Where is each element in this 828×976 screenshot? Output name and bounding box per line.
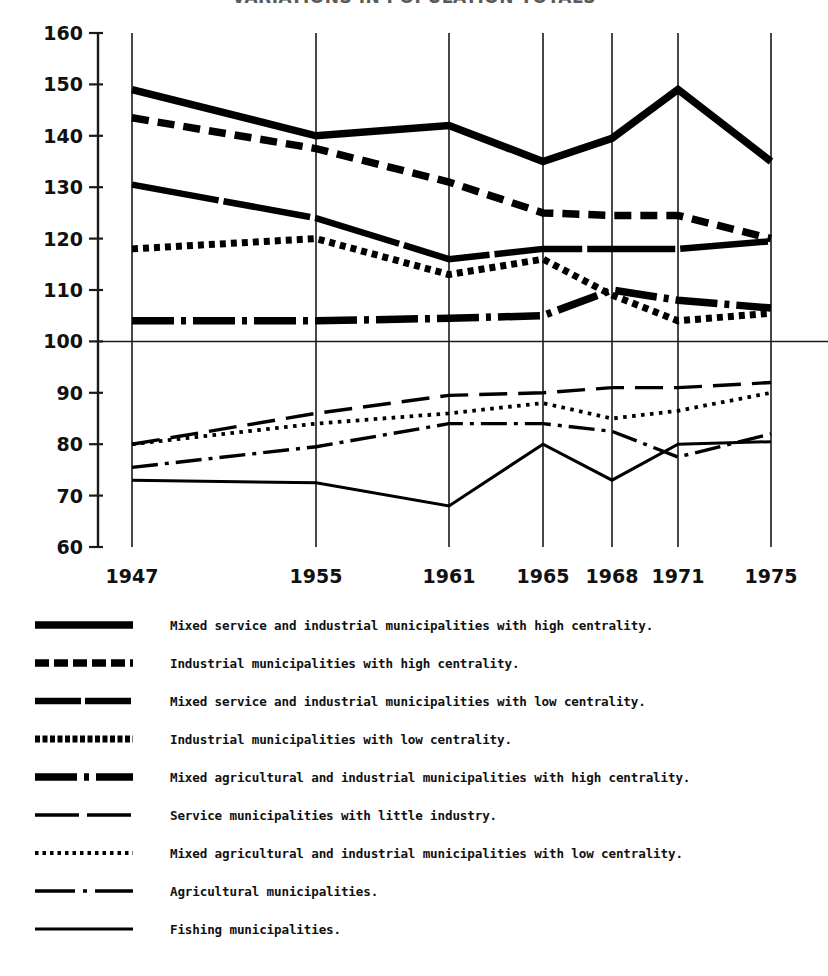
y-tick-label-140: 140 <box>43 125 83 147</box>
legend-label: Industrial municipalities with high cent… <box>170 656 519 671</box>
legend-label: Service municipalities with little indus… <box>170 808 497 823</box>
x-tick-label-1947: 1947 <box>106 565 159 587</box>
legend-item[interactable]: Industrial municipalities with high cent… <box>0 644 828 682</box>
x-tick-label-1975: 1975 <box>745 565 798 587</box>
y-tick-label-130: 130 <box>43 176 83 198</box>
series-line-6 <box>132 393 771 444</box>
y-tick-label-60: 60 <box>57 536 83 558</box>
y-tick-labels: 60708090100110120130140150160 <box>43 22 83 558</box>
legend-item[interactable]: Mixed service and industrial municipalit… <box>0 682 828 720</box>
y-tick-label-90: 90 <box>57 382 83 404</box>
legend-item[interactable]: Fishing municipalities. <box>0 910 828 948</box>
legend-item[interactable]: Service municipalities with little indus… <box>0 796 828 834</box>
chart-plot-area: 60708090100110120130140150160 1947195519… <box>0 9 828 600</box>
series-line-8 <box>132 442 771 506</box>
legend-item[interactable]: Mixed service and industrial municipalit… <box>0 606 828 644</box>
x-tick-label-1968: 1968 <box>586 565 639 587</box>
x-tick-label-1955: 1955 <box>290 565 343 587</box>
chart-title-clipped: VARIATIONS IN POPULATION TOTALS <box>0 0 828 9</box>
legend-label: Mixed service and industrial municipalit… <box>170 694 646 709</box>
legend-label: Fishing municipalities. <box>170 922 341 937</box>
x-tick-label-1961: 1961 <box>423 565 476 587</box>
legend-swatch-2 <box>34 694 134 708</box>
legend-label: Industrial municipalities with low centr… <box>170 732 512 747</box>
y-tick-label-110: 110 <box>43 279 83 301</box>
legend-item[interactable]: Agricultural municipalities. <box>0 872 828 910</box>
legend-label: Mixed agricultural and industrial munici… <box>170 770 690 785</box>
chart-legend: Mixed service and industrial municipalit… <box>0 606 828 976</box>
y-tick-label-150: 150 <box>43 73 83 95</box>
legend-swatch-6 <box>34 846 134 860</box>
series-line-2 <box>132 185 771 260</box>
legend-swatch-7 <box>34 884 134 898</box>
legend-label: Mixed service and industrial municipalit… <box>170 618 653 633</box>
y-tick-label-100: 100 <box>43 330 83 352</box>
y-tick-label-80: 80 <box>57 433 83 455</box>
legend-swatch-1 <box>34 656 134 670</box>
legend-swatch-4 <box>34 770 134 784</box>
legend-swatch-5 <box>34 808 134 822</box>
data-series-layer <box>132 90 771 506</box>
x-tick-label-1971: 1971 <box>652 565 705 587</box>
legend-label: Mixed agricultural and industrial munici… <box>170 846 683 861</box>
legend-label: Agricultural municipalities. <box>170 884 378 899</box>
x-tick-labels: 1947195519611965196819711975 <box>106 565 798 587</box>
legend-swatch-0 <box>34 618 134 632</box>
series-line-5 <box>132 383 771 445</box>
page-title: VARIATIONS IN POPULATION TOTALS <box>0 0 828 7</box>
series-line-0 <box>132 90 771 162</box>
legend-swatch-8 <box>34 922 134 936</box>
y-axis <box>89 33 103 547</box>
series-line-1 <box>132 118 771 239</box>
x-tick-label-1965: 1965 <box>517 565 570 587</box>
legend-item[interactable]: Mixed agricultural and industrial munici… <box>0 834 828 872</box>
y-tick-label-120: 120 <box>43 228 83 250</box>
line-chart: 60708090100110120130140150160 1947195519… <box>0 9 828 600</box>
y-tick-label-70: 70 <box>57 485 83 507</box>
legend-item[interactable]: Industrial municipalities with low centr… <box>0 720 828 758</box>
legend-swatch-3 <box>34 732 134 746</box>
y-tick-label-160: 160 <box>43 22 83 44</box>
legend-item[interactable]: Mixed agricultural and industrial munici… <box>0 758 828 796</box>
